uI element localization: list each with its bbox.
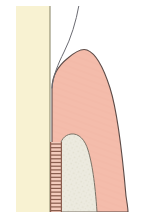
- margin-left: [0, 0, 16, 224]
- anatomy-illustration: [0, 0, 143, 224]
- enamel-strip: [16, 6, 50, 212]
- margin-bottom: [0, 212, 143, 224]
- periodontal-figure: [0, 0, 143, 224]
- periodontal-ligament: [50, 142, 62, 212]
- margin-right: [130, 0, 143, 224]
- margin-top: [0, 0, 143, 6]
